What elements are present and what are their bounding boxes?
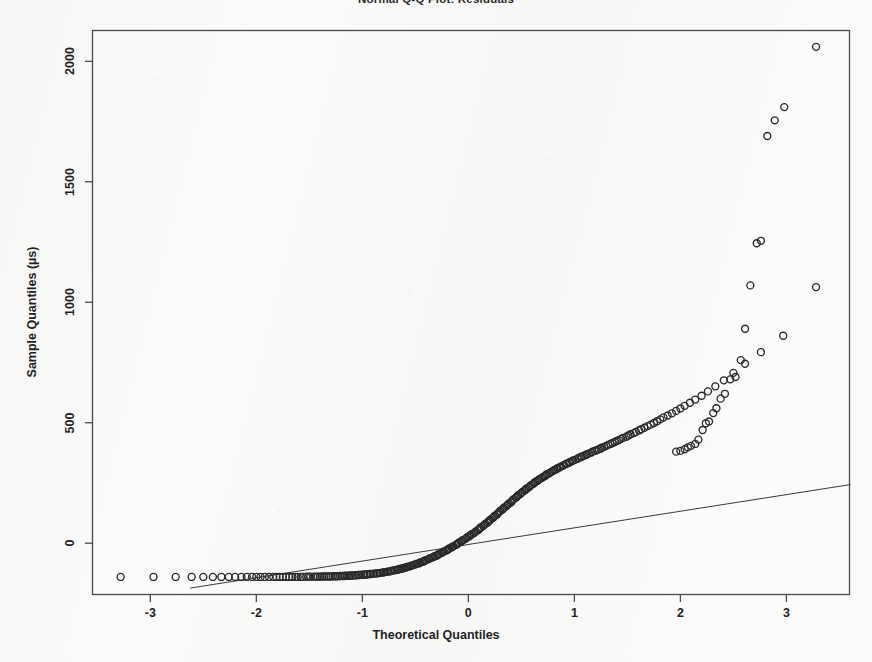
x-tick-label: 0 [465, 606, 472, 620]
page-title: Normal Q-Q Plot: Residuals [0, 0, 872, 5]
x-tick-label: -3 [145, 606, 156, 620]
plot-canvas [0, 0, 872, 662]
axis-frame [93, 31, 850, 595]
y-tick-label: 0 [63, 540, 77, 547]
y-tick-label: 500 [63, 412, 77, 433]
x-tick-label: 1 [571, 606, 578, 620]
x-axis-title: Theoretical Quantiles [0, 628, 872, 642]
qq-plot-figure: Normal Q-Q Plot: Residuals Sample Quanti… [0, 0, 872, 662]
x-tick-label: -2 [251, 606, 262, 620]
x-axis-tick-marks [150, 595, 786, 602]
x-tick-label: -1 [357, 606, 368, 620]
data-point-markers [117, 43, 819, 580]
y-axis-tick-marks [85, 61, 92, 543]
y-tick-label: 1000 [63, 288, 77, 316]
qq-reference-line [191, 485, 850, 588]
x-tick-label: 3 [783, 606, 790, 620]
y-tick-label: 2000 [63, 47, 77, 75]
x-tick-label: 2 [677, 606, 684, 620]
y-axis-title: Sample Quantiles (µs) [25, 12, 39, 612]
y-tick-label: 1500 [63, 168, 77, 196]
